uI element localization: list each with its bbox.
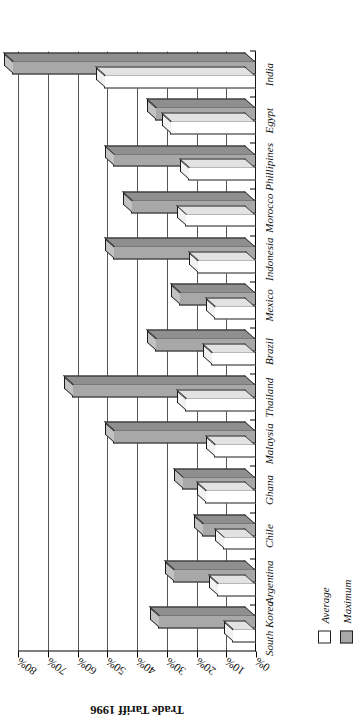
bar-side-face <box>95 66 255 75</box>
gridline <box>137 51 138 651</box>
bar-side-face <box>149 606 255 615</box>
gridline <box>78 51 79 651</box>
value-axis-tick <box>226 651 227 657</box>
bar-side-face <box>146 98 255 107</box>
value-axis-tick-label: 50% <box>104 655 128 677</box>
gridline <box>18 51 19 651</box>
bar-side-face <box>3 52 255 61</box>
category-axis-labels: South KoreaArgentinaChileGhanaMalaysiaTh… <box>256 51 316 651</box>
value-axis-tick-label: 70% <box>44 655 68 677</box>
bar-side-face <box>104 237 255 246</box>
bar-side-face <box>63 375 255 384</box>
bar-average <box>214 305 256 319</box>
bar-average <box>104 74 256 88</box>
bar-average <box>232 628 256 642</box>
bar-side-face <box>164 560 255 569</box>
value-axis-tick <box>137 651 138 657</box>
value-axis-tick <box>107 651 108 657</box>
gridline <box>107 51 108 651</box>
legend-label-average: Average <box>319 587 331 623</box>
legend-swatch-maximum <box>340 630 353 643</box>
value-axis-tick <box>197 651 198 657</box>
plot-area: 0%10%20%30%40%50%60%70%80% South KoreaAr… <box>18 51 256 651</box>
legend-label-maximum: Maximum <box>341 579 353 623</box>
value-axis-tick <box>18 651 19 657</box>
bar-side-face <box>146 329 255 338</box>
bar-side-face <box>104 145 255 154</box>
bar-average <box>170 120 256 134</box>
bar-side-face <box>176 205 255 214</box>
bar-average <box>185 397 256 411</box>
value-axis-tick <box>167 651 168 657</box>
gridline <box>48 51 49 651</box>
value-axis-title: Trade Tariff 1996 <box>90 702 184 717</box>
value-axis-tick-label: 40% <box>134 655 158 677</box>
bar-side-face <box>104 421 255 430</box>
bar-side-face <box>179 158 255 167</box>
legend-item-average: Average <box>318 579 331 643</box>
bar-side-face <box>173 468 255 477</box>
chart-legend: Average Maximum <box>318 579 357 643</box>
value-axis-tick <box>256 651 257 657</box>
bar-side-face <box>188 251 255 260</box>
legend-item-maximum: Maximum <box>340 579 353 643</box>
category-label: India <box>263 39 275 109</box>
bar-side-face <box>196 481 255 490</box>
bar-average <box>214 443 256 457</box>
value-axis-tick-label: 10% <box>223 655 247 677</box>
bar-average <box>211 351 256 365</box>
bar-average <box>217 582 256 596</box>
value-axis-tick-label: 80% <box>15 655 39 677</box>
bar-side-face <box>176 389 255 398</box>
value-axis-tick <box>78 651 79 657</box>
bar-average <box>197 259 257 273</box>
value-axis-tick-label: 60% <box>74 655 98 677</box>
bar-side-face <box>161 112 255 121</box>
bar-side-face <box>193 514 255 523</box>
bar-average <box>185 213 256 227</box>
bar-average <box>188 166 256 180</box>
bar-side-face <box>170 283 255 292</box>
value-axis-tick-label: 30% <box>163 655 187 677</box>
bar-side-face <box>122 191 255 200</box>
bar-average <box>205 489 256 503</box>
value-axis-tick-label: 20% <box>193 655 217 677</box>
bar-average <box>223 536 256 550</box>
legend-swatch-average <box>318 630 331 643</box>
value-axis-tick <box>48 651 49 657</box>
